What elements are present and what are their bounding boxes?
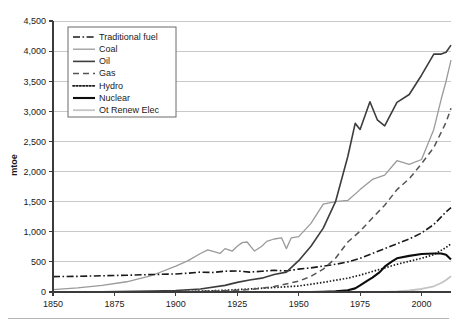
chart-legend: Traditional fuelCoalOilGasHydroNuclearOt…: [68, 27, 176, 117]
series-line-hydro: [53, 244, 451, 292]
x-tick-label: 1925: [227, 299, 247, 309]
y-tick-label: 4,500: [23, 16, 46, 26]
y-tick-label: 4,000: [23, 46, 46, 56]
y-tick-label: 2,000: [23, 167, 46, 177]
energy-consumption-line-chart: 05001,0001,5002,0002,5003,0003,5004,0004…: [0, 0, 457, 324]
y-tick-label: 3,000: [23, 107, 46, 117]
x-tick-label: 1975: [350, 299, 370, 309]
series-line-gas: [53, 108, 451, 292]
x-tick-label: 1900: [166, 299, 186, 309]
chart-figure: 05001,0001,5002,0002,5003,0003,5004,0004…: [0, 0, 457, 324]
legend-label-nuclear: Nuclear: [99, 93, 130, 103]
legend-label-ot-renew-elec: Ot Renew Elec: [99, 105, 160, 115]
x-tick-label: 1950: [289, 299, 309, 309]
y-tick-label: 2,500: [23, 137, 46, 147]
legend-label-oil: Oil: [99, 56, 110, 66]
legend-label-coal: Coal: [99, 44, 118, 54]
y-axis-title: mtoe: [9, 154, 19, 176]
x-tick-label: 1850: [43, 299, 63, 309]
series-line-nuclear: [53, 253, 451, 292]
y-tick-label: 1,500: [23, 197, 46, 207]
legend-label-gas: Gas: [99, 68, 116, 78]
x-axis-tick-labels: 1850187519001925195019752000: [43, 299, 432, 309]
x-tick-label: 2000: [412, 299, 432, 309]
legend-label-hydro: Hydro: [99, 81, 123, 91]
y-tick-label: 500: [31, 257, 46, 267]
x-tick-label: 1875: [104, 299, 124, 309]
y-tick-label: 0: [41, 287, 46, 297]
y-axis-tick-labels: 05001,0001,5002,0002,5003,0003,5004,0004…: [23, 16, 46, 297]
y-tick-label: 1,000: [23, 227, 46, 237]
legend-label-traditional-fuel: Traditional fuel: [99, 32, 158, 42]
y-tick-label: 3,500: [23, 77, 46, 87]
